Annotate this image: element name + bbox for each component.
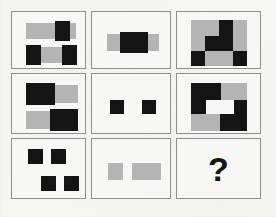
puzzle-cell-1-2[interactable] xyxy=(91,11,171,69)
puzzle-cell-2-2[interactable] xyxy=(91,73,171,134)
cell-stage xyxy=(12,139,85,198)
shape-black-right-block xyxy=(234,100,247,114)
cell-stage xyxy=(177,12,260,68)
puzzle-grid: ? xyxy=(11,11,266,203)
cell-stage xyxy=(12,12,85,68)
puzzle-cell-2-1[interactable] xyxy=(11,73,86,134)
cell-stage xyxy=(177,74,260,133)
shape-gray-square xyxy=(108,163,123,180)
puzzle-cell-3-2[interactable] xyxy=(91,138,171,199)
shape-black-half-top-left xyxy=(26,83,55,105)
puzzle-cell-2-3[interactable] xyxy=(176,73,261,134)
shape-black-top-left-block xyxy=(191,83,221,100)
shape-black-step-upper xyxy=(219,20,233,36)
shape-black-corner-right xyxy=(233,51,247,66)
shape-black-corner-left xyxy=(191,51,205,66)
shape-black-square-top-right xyxy=(51,149,66,164)
shape-black-center xyxy=(120,32,148,53)
question-mark: ? xyxy=(177,139,260,198)
shape-black-bottom-right xyxy=(220,114,247,131)
cell-stage xyxy=(92,12,170,68)
puzzle-cell-3-1[interactable] xyxy=(11,138,86,199)
shape-black-square-left xyxy=(110,100,124,114)
shape-white-notch-middle xyxy=(206,100,234,114)
cell-stage xyxy=(92,74,170,133)
shape-black-square-bottom-right xyxy=(64,176,79,191)
shape-black-square-right xyxy=(142,100,156,114)
shape-black-block-bottom-right xyxy=(62,45,77,65)
cell-stage xyxy=(92,139,170,198)
shape-black-block-bottom-left xyxy=(26,45,41,65)
cell-stage xyxy=(12,74,85,133)
shape-black-square-top-left xyxy=(28,149,43,164)
puzzle-cell-3-3[interactable]: ? xyxy=(176,138,261,199)
shape-black-square-bottom-left xyxy=(41,176,56,191)
puzzle-cell-1-3[interactable] xyxy=(176,11,261,69)
shape-black-left-column xyxy=(191,100,206,114)
shape-black-block-top xyxy=(55,21,70,41)
shape-black-half-bottom-right xyxy=(50,109,78,131)
puzzle-cell-1-1[interactable] xyxy=(11,11,86,69)
shape-gray-rectangle xyxy=(132,163,161,180)
shape-black-step-middle xyxy=(205,36,233,51)
matrix-puzzle: ? xyxy=(0,0,276,217)
